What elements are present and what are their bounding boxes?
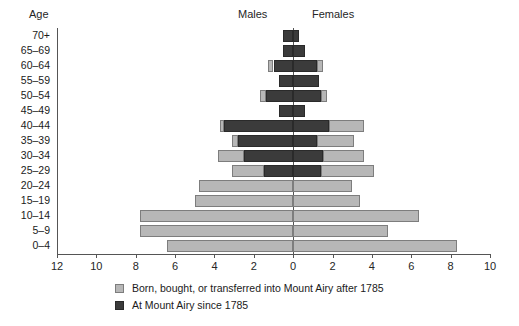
age-label: 10–14 <box>0 210 50 221</box>
pyramid-row <box>57 210 490 222</box>
bar-female-after-1785 <box>293 240 456 252</box>
age-label: 5–9 <box>0 225 50 236</box>
bar-male-since-1785 <box>244 150 293 162</box>
legend-label: At Mount Airy since 1785 <box>132 299 248 311</box>
bar-male-after-1785 <box>195 195 293 207</box>
pyramid-row <box>57 45 490 57</box>
x-tick <box>175 254 176 258</box>
x-tick-label: 6 <box>396 260 426 272</box>
age-label: 35–39 <box>0 135 50 146</box>
pyramid-row <box>57 135 490 147</box>
age-label: 55–59 <box>0 75 50 86</box>
bar-female-since-1785 <box>293 60 317 72</box>
bar-female-after-1785 <box>293 180 352 192</box>
bar-female-after-1785 <box>329 120 364 132</box>
bar-female-since-1785 <box>293 120 328 132</box>
bar-female-since-1785 <box>293 135 317 147</box>
bar-male-after-1785 <box>232 165 263 177</box>
legend-swatch-since <box>115 301 124 310</box>
x-tick-label: 0 <box>278 260 308 272</box>
bar-male-since-1785 <box>283 45 293 57</box>
bar-male-since-1785 <box>224 120 293 132</box>
x-tick-label: 6 <box>160 260 190 272</box>
x-tick <box>490 254 491 258</box>
legend-item: At Mount Airy since 1785 <box>115 298 384 312</box>
pyramid-row <box>57 120 490 132</box>
age-label: 50–54 <box>0 90 50 101</box>
bar-male-since-1785 <box>238 135 293 147</box>
age-label: 70+ <box>0 30 50 41</box>
bar-female-after-1785 <box>293 225 387 237</box>
bar-male-since-1785 <box>274 60 294 72</box>
bar-male-after-1785 <box>167 240 293 252</box>
bar-male-after-1785 <box>140 225 294 237</box>
x-tick <box>411 254 412 258</box>
x-tick <box>293 254 294 258</box>
x-tick <box>96 254 97 258</box>
bar-male-since-1785 <box>279 105 293 117</box>
x-tick <box>136 254 137 258</box>
pyramid-row <box>57 60 490 72</box>
x-tick <box>451 254 452 258</box>
pyramid-row <box>57 180 490 192</box>
pyramid-row <box>57 165 490 177</box>
pyramid-row <box>57 30 490 42</box>
x-tick-label: 8 <box>436 260 466 272</box>
bar-male-after-1785 <box>218 150 244 162</box>
bar-male-since-1785 <box>279 75 293 87</box>
bar-female-after-1785 <box>293 210 419 222</box>
legend-item: Born, bought, or transferred into Mount … <box>115 281 384 295</box>
population-pyramid-chart: Age Males Females 70+65–6960–6455–5950–5… <box>0 0 519 326</box>
bar-female-after-1785 <box>321 90 327 102</box>
x-tick-label: 4 <box>357 260 387 272</box>
bar-female-since-1785 <box>293 165 321 177</box>
bar-female-after-1785 <box>317 60 323 72</box>
x-tick <box>372 254 373 258</box>
age-label: 60–64 <box>0 60 50 71</box>
pyramid-row <box>57 225 490 237</box>
legend-label: Born, bought, or transferred into Mount … <box>132 282 384 294</box>
bar-female-since-1785 <box>293 45 305 57</box>
bar-female-after-1785 <box>323 150 364 162</box>
age-label: 45–49 <box>0 105 50 116</box>
age-column-title: Age <box>29 8 49 20</box>
bar-male-after-1785 <box>140 210 294 222</box>
x-tick-label: 12 <box>42 260 72 272</box>
bar-female-since-1785 <box>293 75 319 87</box>
bar-female-since-1785 <box>293 90 321 102</box>
bar-male-since-1785 <box>266 90 294 102</box>
pyramid-row <box>57 240 490 252</box>
bar-female-after-1785 <box>321 165 374 177</box>
bar-male-after-1785 <box>199 180 293 192</box>
bar-female-since-1785 <box>293 30 299 42</box>
x-tick-label: 10 <box>81 260 111 272</box>
bar-female-since-1785 <box>293 150 323 162</box>
x-tick <box>57 254 58 258</box>
age-label: 15–19 <box>0 195 50 206</box>
males-column-title: Males <box>238 8 267 20</box>
age-label: 30–34 <box>0 150 50 161</box>
plot-area: 121086420246810 <box>57 28 490 254</box>
x-axis-line <box>57 254 490 255</box>
pyramid-row <box>57 150 490 162</box>
age-label: 20–24 <box>0 180 50 191</box>
bar-male-since-1785 <box>264 165 294 177</box>
bar-female-after-1785 <box>293 195 360 207</box>
pyramid-row <box>57 90 490 102</box>
x-tick <box>333 254 334 258</box>
bar-male-since-1785 <box>283 30 293 42</box>
x-tick-label: 2 <box>239 260 269 272</box>
x-tick-label: 8 <box>121 260 151 272</box>
bar-female-after-1785 <box>317 135 354 147</box>
pyramid-row <box>57 195 490 207</box>
age-label: 25–29 <box>0 165 50 176</box>
pyramid-row <box>57 75 490 87</box>
age-label: 65–69 <box>0 45 50 56</box>
age-label: 0–4 <box>0 240 50 251</box>
x-tick-label: 4 <box>199 260 229 272</box>
pyramid-row <box>57 105 490 117</box>
x-tick-label: 2 <box>318 260 348 272</box>
chart-legend: Born, bought, or transferred into Mount … <box>115 281 384 315</box>
x-tick <box>254 254 255 258</box>
x-tick <box>214 254 215 258</box>
